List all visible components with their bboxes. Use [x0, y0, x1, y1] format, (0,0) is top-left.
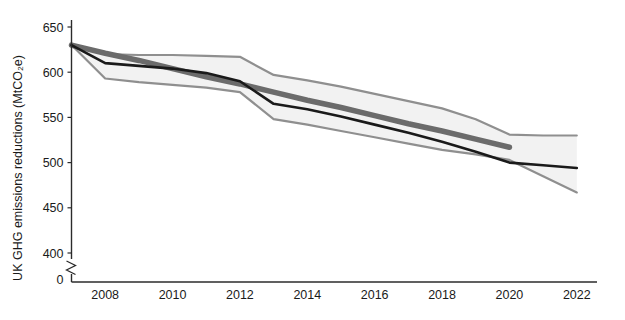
linear-pathway-line [72, 45, 510, 147]
ghg-emissions-line-chart: 4004505005506006500 20082010201220142016… [0, 0, 625, 320]
x-tick-label: 2008 [91, 288, 119, 302]
x-tick-label: 2016 [361, 288, 389, 302]
x-tick-label: 2018 [428, 288, 456, 302]
x-tick-labels: 20082010201220142016201820202022 [91, 288, 590, 302]
y-tick-label: 500 [43, 156, 64, 170]
x-tick-label: 2022 [563, 288, 591, 302]
x-tick-label: 2020 [496, 288, 524, 302]
y-tick-label: 450 [43, 201, 64, 215]
x-tick-label: 2012 [226, 288, 254, 302]
y-tick-label: 550 [43, 111, 64, 125]
y-axis-title: UK GHG emissions reductions (MtCO₂e) [11, 55, 25, 281]
x-tick-label: 2014 [293, 288, 321, 302]
y-tick-label-zero: 0 [57, 273, 64, 287]
y-tick-labels: 4004505005506006500 [43, 21, 64, 288]
y-tick-label: 400 [43, 247, 64, 261]
y-tick-label: 650 [43, 21, 64, 35]
x-tick-label: 2010 [159, 288, 187, 302]
y-tick-label: 600 [43, 66, 64, 80]
axis-break-icon [67, 261, 76, 275]
plot-area [72, 45, 577, 192]
